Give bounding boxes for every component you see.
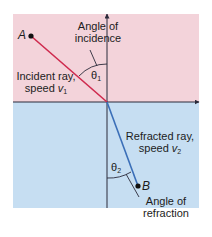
- point-a-label: A: [18, 29, 26, 41]
- point-a-dot: [28, 33, 33, 38]
- refracted-ray-label: Refracted ray, speed v2: [122, 130, 198, 158]
- angle-of-incidence-label: Angle of incidence: [68, 20, 128, 44]
- theta1-label: θ1: [91, 69, 101, 85]
- angle-of-refraction-label: Angle of refraction: [135, 195, 197, 219]
- point-b-dot: [135, 183, 140, 188]
- theta2-label: θ2: [111, 161, 121, 177]
- point-b-label: B: [142, 180, 150, 192]
- refraction-diagram: A B Angle of incidence θ1 Incident ray, …: [0, 0, 212, 237]
- incident-ray-label: Incident ray, speed v1: [12, 70, 80, 98]
